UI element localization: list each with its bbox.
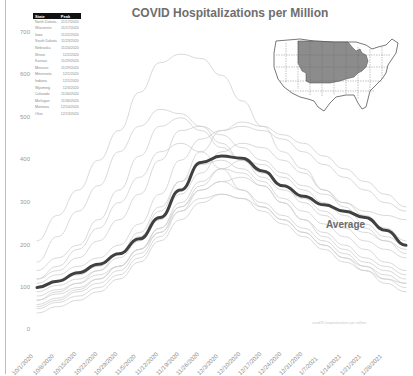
table-row: Minnesota12/1/2020 — [33, 72, 81, 79]
state-name: North Dakota — [33, 19, 59, 26]
peak-date: 12/14/2020 — [59, 105, 81, 112]
table-row: Iowa11/22/2020 — [33, 32, 81, 39]
table-row: Illinois12/2/2020 — [33, 52, 81, 59]
state-name: Nebraska — [33, 46, 59, 53]
state-name: Minnesota — [33, 72, 59, 79]
peak-date: 12/13/2020 — [59, 112, 81, 119]
table-row: Montana12/14/2020 — [33, 105, 81, 112]
table-row: Wyoming12/3/2020 — [33, 85, 81, 92]
table-row: Michigan11/30/2020 — [33, 98, 81, 105]
state-name: South Dakota — [33, 39, 59, 46]
state-name: Wisconsin — [33, 26, 59, 33]
peak-date: 11/17/2020 — [59, 26, 81, 33]
table-row: Colorado11/30/2020 — [33, 92, 81, 99]
state-name: Ohio — [33, 112, 59, 119]
us-map-icon — [270, 33, 408, 115]
state-name: Illinois — [33, 52, 59, 59]
state-name: Colorado — [33, 92, 59, 99]
table-row: Ohio12/13/2020 — [33, 112, 81, 119]
average-annotation: Average — [326, 219, 365, 230]
table-row: South Dakota11/23/2020 — [33, 39, 81, 46]
peak-date: 11/22/2020 — [59, 32, 81, 39]
source-note: covid19-hospitalizations per million — [312, 321, 366, 325]
peak-date: 11/17/2020 — [59, 19, 81, 26]
peak-date: 12/3/2020 — [59, 85, 81, 92]
peak-date: 11/23/2020 — [59, 39, 81, 46]
state-name: Michigan — [33, 98, 59, 105]
table-row: North Dakota11/17/2020 — [33, 19, 81, 26]
state-name: Montana — [33, 105, 59, 112]
table-row: Missouri11/29/2020 — [33, 65, 81, 72]
peak-date: 11/29/2020 — [59, 65, 81, 72]
table-row: Kansas11/29/2020 — [33, 59, 81, 66]
peak-date: 12/1/2020 — [59, 79, 81, 86]
peak-date: 11/30/2020 — [59, 92, 81, 99]
state-line — [37, 169, 406, 296]
state-name: Kansas — [33, 59, 59, 66]
us-map — [270, 33, 408, 119]
peak-date: 11/30/2020 — [59, 98, 81, 105]
table-row: Indiana12/1/2020 — [33, 79, 81, 86]
state-name: Iowa — [33, 32, 59, 39]
state-name: Missouri — [33, 65, 59, 72]
state-line — [37, 181, 406, 308]
peak-date: 11/24/2020 — [59, 46, 81, 53]
peak-date: 11/29/2020 — [59, 59, 81, 66]
peak-date: 12/2/2020 — [59, 52, 81, 59]
table-row: Nebraska11/24/2020 — [33, 46, 81, 53]
peak-date: 12/1/2020 — [59, 72, 81, 79]
state-line — [37, 160, 406, 306]
table-row: Wisconsin11/17/2020 — [33, 26, 81, 33]
state-peak-table: State Peak North Dakota11/17/2020Wiscons… — [33, 13, 81, 118]
state-name: Indiana — [33, 79, 59, 86]
state-name: Wyoming — [33, 85, 59, 92]
